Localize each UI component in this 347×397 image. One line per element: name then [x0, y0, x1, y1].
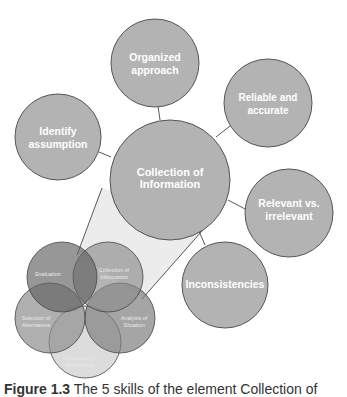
- analysis-label-2: Situation: [123, 322, 144, 328]
- identify-line1: Identify: [39, 125, 76, 137]
- circle-organized-approach: Organized approach: [111, 19, 199, 107]
- organized-line2: approach: [131, 64, 178, 76]
- generation-label-1: Generation of: [63, 355, 97, 361]
- connector-organized: [158, 106, 160, 120]
- identify-line2: assumption: [29, 138, 88, 150]
- collection-label-2: Information: [100, 274, 128, 280]
- connector-identify: [99, 152, 111, 157]
- figure-number: Figure 1.3: [4, 381, 70, 397]
- figure-caption: Figure 1.3 The 5 skills of the element C…: [4, 381, 317, 397]
- circle-inconsistencies: Inconsistencies: [182, 242, 268, 328]
- analysis-label-1: Analysis of: [121, 315, 148, 321]
- collection-label-1: Collection of: [99, 267, 130, 273]
- circle-identify-assumption: Identify assumption: [15, 94, 101, 180]
- selection-label-1: Selection of: [22, 315, 51, 321]
- evaluation-label: Evaluation: [35, 271, 61, 277]
- circle-reliable-accurate: Reliable and accurate: [224, 59, 312, 147]
- relevant-line1: Relevant vs.: [258, 197, 319, 209]
- center-line1: Collection of: [137, 166, 204, 178]
- inconsistencies-line1: Inconsistencies: [186, 278, 265, 290]
- connector-reliable: [216, 126, 230, 137]
- figure-caption-text: The 5 skills of the element Collection o…: [70, 381, 317, 397]
- connector-relevant: [228, 200, 245, 209]
- organized-line1: Organized: [129, 51, 180, 63]
- center-line2: Information: [140, 178, 201, 190]
- circle-collection-of-information: Collection of Information: [110, 120, 230, 240]
- circle-relevant-irrelevant: Relevant vs. irrelevant: [245, 169, 333, 257]
- skills-cluster: Evaluation Collection of Information Ana…: [15, 242, 155, 378]
- reliable-line2: accurate: [247, 105, 289, 116]
- relevant-line2: irrelevant: [265, 210, 313, 222]
- generation-label-2: Alternatives: [66, 362, 95, 368]
- cluster-circle-evaluation: [27, 242, 97, 312]
- reliable-line1: Reliable and: [239, 92, 298, 103]
- selection-label-2: Alternatives: [22, 322, 51, 328]
